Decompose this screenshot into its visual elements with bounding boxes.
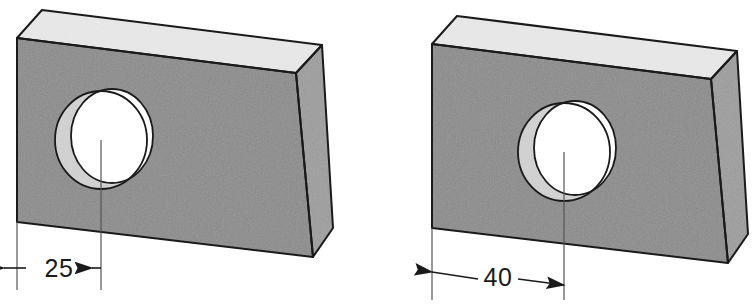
isometric-blocks-canvas: 25	[0, 0, 756, 307]
block-25-dimension-label: 25	[45, 254, 74, 282]
block-40-dimension-label: 40	[484, 263, 513, 291]
technical-figure: 25	[0, 0, 756, 307]
